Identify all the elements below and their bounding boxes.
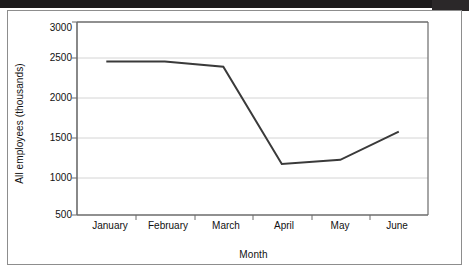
series-line-all-employees bbox=[106, 61, 399, 164]
x-axis-ticks bbox=[136, 215, 370, 220]
line-chart: All employees (thousands) Month 3000 250… bbox=[0, 0, 469, 277]
plot-canvas bbox=[0, 0, 469, 277]
gridlines bbox=[77, 58, 428, 178]
